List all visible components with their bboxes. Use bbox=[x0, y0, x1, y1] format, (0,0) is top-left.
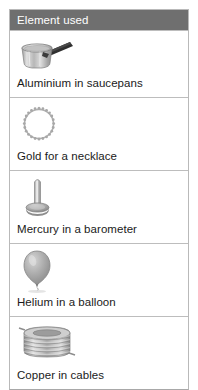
row-label: Gold for a necklace bbox=[10, 150, 188, 170]
row-icon-cell bbox=[10, 317, 188, 369]
wire-coil-icon bbox=[16, 322, 78, 364]
row-label: Helium in a balloon bbox=[10, 296, 188, 316]
table-row: Mercury in a barometer bbox=[10, 170, 188, 243]
barometer-icon bbox=[16, 173, 60, 221]
row-icon-cell bbox=[10, 98, 188, 150]
row-icon-cell bbox=[10, 171, 188, 223]
row-label: Aluminium in saucepans bbox=[10, 77, 188, 97]
table-row: Gold for a necklace bbox=[10, 97, 188, 170]
table-header-element-used: Element used bbox=[10, 10, 188, 30]
row-icon-cell bbox=[10, 31, 188, 77]
element-used-table: Element used bbox=[9, 9, 189, 390]
table-row: Helium in a balloon bbox=[10, 243, 188, 316]
row-label: Copper in cables bbox=[10, 369, 188, 389]
row-icon-cell bbox=[10, 244, 188, 296]
necklace-icon bbox=[16, 101, 62, 147]
table-row: Aluminium in saucepans bbox=[10, 30, 188, 97]
balloon-icon bbox=[16, 246, 60, 294]
row-label: Mercury in a barometer bbox=[10, 223, 188, 243]
table-row: Copper in cables bbox=[10, 316, 188, 389]
saucepan-icon bbox=[16, 36, 78, 72]
